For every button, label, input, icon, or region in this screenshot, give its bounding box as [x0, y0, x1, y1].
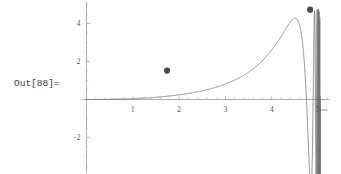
y-tick-label: 2	[77, 57, 81, 66]
data-point-markers[interactable]	[164, 7, 313, 74]
notebook-output-cell: Out[88]= 12345 -224	[0, 0, 341, 174]
x-tick-label: 1	[131, 105, 135, 114]
data-curve	[87, 9, 328, 174]
x-tick-label: 4	[270, 105, 274, 114]
x-axis-tick-labels: 12345	[131, 105, 320, 114]
plot-graphics[interactable]: 12345 -224	[0, 0, 341, 174]
y-tick-label: 4	[77, 19, 81, 28]
y-tick-label: -2	[74, 133, 81, 142]
marker-first-maximum[interactable]	[164, 68, 170, 74]
x-tick-label: 5	[316, 105, 320, 114]
x-tick-label: 3	[223, 105, 227, 114]
marker-last-maximum[interactable]	[307, 7, 313, 13]
y-axis-tick-labels: -224	[74, 19, 81, 142]
x-tick-label: 2	[177, 105, 181, 114]
plot-svg: 12345 -224	[0, 0, 341, 174]
